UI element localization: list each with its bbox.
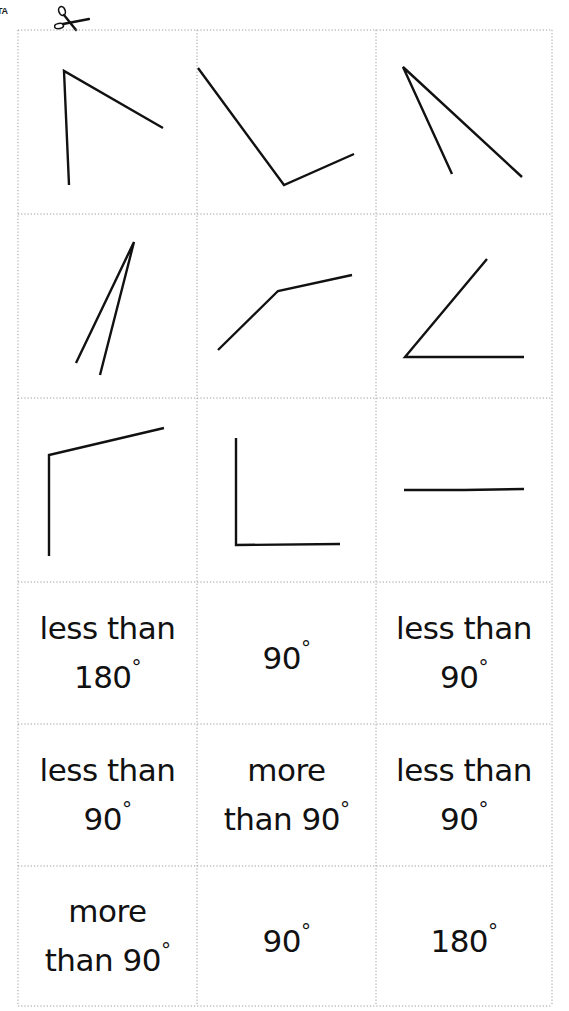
label-line-2: than 90° bbox=[224, 790, 350, 839]
angle-size-label: less than90° bbox=[40, 751, 176, 839]
angle-card-sheet: less than180°90°less than90°less than90°… bbox=[0, 0, 569, 1011]
angle-card-angle-3[interactable] bbox=[403, 67, 522, 177]
label-line-2: than 90° bbox=[45, 931, 171, 980]
degree-value: 90 bbox=[84, 801, 122, 837]
angle-drawing bbox=[64, 71, 163, 185]
label-line-1: less than bbox=[40, 609, 176, 648]
angle-size-label: less than90° bbox=[396, 609, 532, 697]
label-line-2: 90° bbox=[396, 790, 532, 839]
angle-card-angle-9[interactable] bbox=[404, 489, 524, 490]
label-line-2: 90° bbox=[263, 629, 311, 678]
angle-card-angle-4[interactable] bbox=[76, 242, 134, 375]
label-card[interactable]: 90° bbox=[197, 582, 376, 724]
angle-card-angle-8[interactable] bbox=[236, 438, 340, 545]
angle-card-angle-2[interactable] bbox=[198, 68, 354, 185]
angle-card-angle-5[interactable] bbox=[218, 275, 352, 350]
label-card[interactable]: morethan 90° bbox=[197, 724, 376, 866]
label-line-1: less than bbox=[396, 609, 532, 648]
label-line-2: 90° bbox=[396, 648, 532, 697]
angle-size-label: less than180° bbox=[40, 609, 176, 697]
label-card[interactable]: morethan 90° bbox=[18, 866, 197, 1006]
degree-symbol: ° bbox=[488, 919, 498, 943]
angle-drawing bbox=[218, 275, 352, 350]
label-line-2: 180° bbox=[40, 648, 176, 697]
angle-drawing bbox=[236, 438, 340, 545]
label-line-2: 90° bbox=[40, 790, 176, 839]
angle-size-label: less than90° bbox=[396, 751, 532, 839]
label-line-1: less than bbox=[40, 751, 176, 790]
label-line-1: more bbox=[45, 892, 171, 931]
label-card[interactable]: 90° bbox=[197, 866, 376, 1006]
label-card[interactable]: less than90° bbox=[376, 724, 552, 866]
angle-drawing bbox=[403, 67, 522, 177]
angle-drawing bbox=[76, 242, 134, 375]
degree-value: 90 bbox=[263, 640, 301, 676]
angle-drawing bbox=[198, 68, 354, 185]
angle-size-label: morethan 90° bbox=[224, 751, 350, 839]
degree-symbol: ° bbox=[340, 797, 350, 821]
label-line-1: more bbox=[224, 751, 350, 790]
degree-value: than 90 bbox=[45, 942, 161, 978]
degree-symbol: ° bbox=[478, 797, 488, 821]
angle-size-label: 180° bbox=[430, 912, 497, 961]
degree-value: 180 bbox=[74, 659, 132, 695]
degree-value: 90 bbox=[440, 801, 478, 837]
angle-drawing bbox=[405, 259, 524, 357]
degree-value: than 90 bbox=[224, 801, 340, 837]
degree-value: 90 bbox=[440, 659, 478, 695]
degree-symbol: ° bbox=[301, 919, 311, 943]
angle-drawing bbox=[404, 489, 524, 490]
label-card[interactable]: less than180° bbox=[18, 582, 197, 724]
angle-size-label: 90° bbox=[263, 912, 311, 961]
angle-size-label: 90° bbox=[263, 629, 311, 678]
degree-symbol: ° bbox=[301, 636, 311, 660]
label-card[interactable]: 180° bbox=[376, 866, 552, 1006]
degree-symbol: ° bbox=[161, 938, 171, 962]
label-line-2: 90° bbox=[263, 912, 311, 961]
angle-drawing bbox=[49, 428, 164, 556]
angle-card-angle-1[interactable] bbox=[64, 71, 163, 185]
degree-symbol: ° bbox=[132, 655, 142, 679]
label-card[interactable]: less than90° bbox=[376, 582, 552, 724]
degree-symbol: ° bbox=[122, 797, 132, 821]
degree-symbol: ° bbox=[478, 655, 488, 679]
label-line-1: less than bbox=[396, 751, 532, 790]
angle-card-angle-6[interactable] bbox=[405, 259, 524, 357]
degree-value: 180 bbox=[430, 923, 488, 959]
angle-card-angle-7[interactable] bbox=[49, 428, 164, 556]
angle-size-label: morethan 90° bbox=[45, 892, 171, 980]
degree-value: 90 bbox=[263, 923, 301, 959]
label-line-2: 180° bbox=[430, 912, 497, 961]
label-card[interactable]: less than90° bbox=[18, 724, 197, 866]
